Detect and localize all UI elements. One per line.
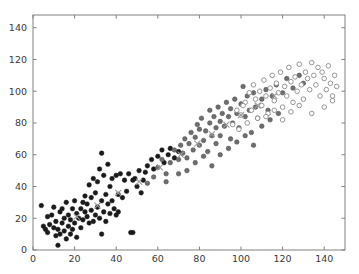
- data-point-filled: [79, 206, 84, 211]
- y-tick-label: 80: [15, 117, 27, 128]
- data-point-filled: [110, 198, 115, 203]
- data-point-filled: [145, 164, 150, 169]
- data-point-x: [136, 179, 142, 185]
- data-point-open: [289, 79, 294, 84]
- data-point-filled: [95, 179, 100, 184]
- data-point-open: [295, 89, 300, 94]
- data-point-open: [322, 105, 327, 110]
- data-point-filled: [187, 141, 192, 146]
- data-point-open: [251, 83, 256, 88]
- data-point-filled: [101, 210, 106, 215]
- y-tick-label: 140: [9, 22, 27, 33]
- data-point-filled: [83, 194, 88, 199]
- data-point-filled: [193, 135, 198, 140]
- data-point-open: [257, 89, 262, 94]
- data-point-filled: [178, 143, 183, 148]
- y-tick-label: 100: [9, 86, 27, 97]
- data-point-filled: [260, 97, 265, 102]
- data-point-open: [280, 117, 285, 122]
- data-point-open: [237, 127, 242, 132]
- y-tick-label: 60: [15, 149, 27, 160]
- data-point-filled: [201, 154, 206, 159]
- data-point-filled: [74, 235, 79, 240]
- data-point-open: [260, 103, 265, 108]
- x-tick-label: 140: [315, 253, 333, 264]
- data-point-filled: [197, 127, 202, 132]
- data-point-filled: [183, 137, 188, 142]
- x-tick-label: 0: [30, 253, 36, 264]
- data-point-filled: [54, 233, 59, 238]
- data-point-open: [293, 75, 298, 80]
- data-point-filled: [168, 146, 173, 151]
- data-point-filled: [220, 111, 225, 116]
- data-point-filled: [172, 148, 177, 153]
- data-point-filled: [116, 210, 121, 215]
- data-point-filled: [79, 225, 84, 230]
- data-point-filled: [87, 183, 92, 188]
- data-point-filled: [189, 130, 194, 135]
- data-point-filled: [108, 184, 113, 189]
- data-point-open: [332, 73, 337, 78]
- x-tick-label: 40: [110, 253, 122, 264]
- data-point-filled: [54, 219, 59, 224]
- data-point-open: [272, 98, 277, 103]
- data-point-open: [282, 84, 287, 89]
- data-point-filled: [218, 133, 223, 138]
- data-point-filled: [156, 154, 161, 159]
- data-point-open: [270, 73, 275, 78]
- data-point-filled: [151, 175, 156, 180]
- data-point-filled: [185, 156, 190, 161]
- data-point-open: [324, 87, 329, 92]
- data-point-filled: [108, 211, 113, 216]
- data-point-filled: [62, 216, 67, 221]
- x-tick-label: 60: [152, 253, 164, 264]
- data-point-filled: [45, 230, 50, 235]
- data-point-filled: [208, 108, 213, 113]
- data-point-open: [253, 97, 258, 102]
- data-point-open: [328, 81, 333, 86]
- data-point-filled: [66, 224, 71, 229]
- data-point-filled: [164, 179, 169, 184]
- data-point-filled: [64, 237, 69, 242]
- data-point-filled: [64, 200, 69, 205]
- data-point-filled: [62, 229, 67, 234]
- data-point-filled: [212, 114, 217, 119]
- data-point-filled: [68, 218, 73, 223]
- plot-canvas: 020406080100120140020406080100120140: [0, 0, 359, 274]
- data-point-filled: [205, 149, 210, 154]
- data-point-filled: [291, 86, 296, 91]
- data-point-filled: [199, 116, 204, 121]
- data-point-filled: [164, 171, 169, 176]
- data-point-filled: [160, 148, 165, 153]
- data-point-filled: [224, 100, 229, 105]
- data-point-filled: [97, 167, 102, 172]
- data-point-filled: [81, 218, 86, 223]
- data-point-open: [255, 116, 260, 121]
- data-point-open: [289, 110, 294, 115]
- data-point-filled: [260, 124, 265, 129]
- x-tick-label: 120: [274, 253, 292, 264]
- data-point-filled: [226, 114, 231, 119]
- data-point-filled: [85, 202, 90, 207]
- data-point-filled: [72, 198, 77, 203]
- data-point-filled: [191, 148, 196, 153]
- data-point-filled: [243, 133, 248, 138]
- data-point-open: [309, 111, 314, 116]
- data-point-filled: [124, 189, 129, 194]
- data-point-filled: [268, 117, 273, 122]
- data-point-open: [334, 84, 339, 89]
- data-point-filled: [93, 191, 98, 196]
- data-point-filled: [91, 219, 96, 224]
- data-point-filled: [149, 157, 154, 162]
- data-point-filled: [93, 213, 98, 218]
- data-point-filled: [60, 221, 65, 226]
- data-point-open: [280, 105, 285, 110]
- data-point-filled: [47, 222, 52, 227]
- data-point-open: [264, 114, 269, 119]
- data-point-filled: [160, 157, 165, 162]
- data-point-open: [312, 73, 317, 78]
- data-point-filled: [226, 146, 231, 151]
- data-point-filled: [85, 214, 90, 219]
- series-dark-filled-circles: [39, 146, 181, 247]
- data-point-filled: [218, 119, 223, 124]
